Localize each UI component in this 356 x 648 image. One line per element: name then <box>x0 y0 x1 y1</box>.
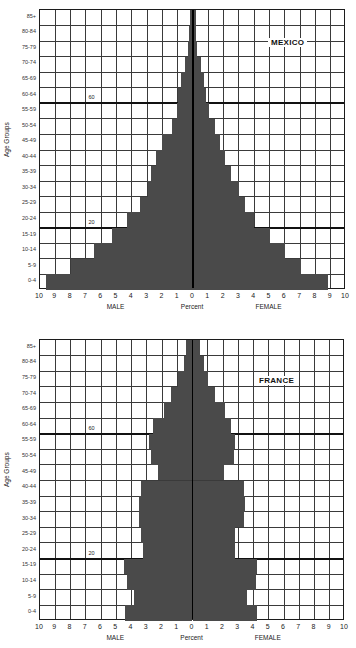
x-tick-label: 3 <box>230 623 244 630</box>
bar-female <box>193 340 201 356</box>
bar-male <box>134 590 193 606</box>
x-tick-label: 8 <box>307 623 321 630</box>
bar-female <box>193 259 301 275</box>
bar-female <box>193 181 239 197</box>
bar-male <box>177 103 193 119</box>
x-tick-label: 5 <box>108 623 122 630</box>
bar-male <box>127 212 193 228</box>
bar-male <box>141 527 193 543</box>
age-group-label: 5-9 <box>6 593 36 599</box>
bar-female <box>193 574 256 590</box>
country-title: MEXICO <box>268 38 307 47</box>
age-group-label: 45-49 <box>6 468 36 474</box>
bar-female <box>193 166 231 182</box>
bar-male <box>171 387 192 403</box>
bar-female <box>193 387 216 403</box>
age-group-label: 55-59 <box>6 436 36 442</box>
x-tick-label: 5 <box>261 623 275 630</box>
bar-male <box>141 481 193 497</box>
bar-female <box>193 150 225 166</box>
bar-female <box>193 449 235 465</box>
bar-male <box>124 559 193 575</box>
bar-female <box>193 243 285 259</box>
bar-male <box>162 134 193 150</box>
bar-female <box>193 197 245 213</box>
bar-female <box>193 57 201 73</box>
x-tick-label: 4 <box>246 623 260 630</box>
bar-male <box>181 72 193 88</box>
bar-female <box>193 512 244 528</box>
bar-female <box>193 356 204 372</box>
bar-female <box>193 103 209 119</box>
bar-female <box>193 402 225 418</box>
bar-female <box>193 496 246 512</box>
bar-male <box>153 418 193 434</box>
bar-male <box>178 371 192 387</box>
country-title: FRANCE <box>256 376 297 385</box>
bar-male <box>164 402 192 418</box>
y-axis-title: Age Groups <box>3 452 10 487</box>
age-group-label: 30-34 <box>6 515 36 521</box>
bar-female <box>193 434 236 450</box>
marker-20: 20 <box>89 219 95 225</box>
age-group-label: 70-74 <box>6 390 36 396</box>
x-tick-label: 9 <box>47 623 61 630</box>
bar-female <box>193 559 257 575</box>
marker-20: 20 <box>88 550 94 556</box>
age-group-label: 50-54 <box>6 452 36 458</box>
bar-female <box>193 274 328 290</box>
bar-female <box>193 543 236 559</box>
center-axis <box>192 340 194 619</box>
bar-male <box>139 512 192 528</box>
age-group-label: 20-24 <box>6 546 36 552</box>
bar-female <box>193 134 220 150</box>
bar-female <box>193 88 206 104</box>
bar-female <box>193 371 208 387</box>
age-group-label: 15-19 <box>6 561 36 567</box>
bar-male <box>112 228 193 244</box>
x-tick-label: 10 <box>337 623 351 630</box>
bar-male <box>149 434 192 450</box>
x-tick-label: 7 <box>78 623 92 630</box>
plot-area <box>39 339 344 620</box>
age-group-label: 75-79 <box>6 374 36 380</box>
bar-female <box>193 212 254 228</box>
x-tick-label: 4 <box>124 623 138 630</box>
age-group-label: 80-84 <box>6 358 36 364</box>
age-group-label: 10-14 <box>6 577 36 583</box>
bar-female <box>193 418 231 434</box>
x-tick-label: 7 <box>291 623 305 630</box>
age-group-label: 40-44 <box>6 483 36 489</box>
bar-female <box>193 72 204 88</box>
bar-male <box>143 543 193 559</box>
x-tick-label: 2 <box>215 623 229 630</box>
age-group-label: 35-39 <box>6 499 36 505</box>
bar-female <box>193 590 248 606</box>
bar-male <box>94 243 193 259</box>
bar-male <box>139 496 192 512</box>
bar-male <box>172 119 193 135</box>
female-label: FEMALE <box>248 634 288 641</box>
x-tick-label: 1 <box>169 623 183 630</box>
bar-male <box>71 259 193 275</box>
marker-60: 60 <box>89 94 95 100</box>
bar-male <box>125 605 193 621</box>
bar-male <box>46 274 193 290</box>
bar-male <box>151 449 193 465</box>
bar-male <box>178 88 193 104</box>
x-tick-label: 6 <box>93 623 107 630</box>
x-tick-label: 0 <box>185 623 199 630</box>
x-tick-label: 9 <box>322 623 336 630</box>
x-tick-label: 6 <box>276 623 290 630</box>
age-group-label: 25-29 <box>6 530 36 536</box>
bar-female <box>193 527 236 543</box>
marker-60: 60 <box>88 425 94 431</box>
bar-male <box>156 150 193 166</box>
bar-male <box>158 465 192 481</box>
x-tick-label: 3 <box>139 623 153 630</box>
center-axis <box>192 10 194 288</box>
x-tick-label: 2 <box>154 623 168 630</box>
bar-female <box>193 228 270 244</box>
age-group-label: 85+ <box>6 343 36 349</box>
bar-male <box>127 574 193 590</box>
